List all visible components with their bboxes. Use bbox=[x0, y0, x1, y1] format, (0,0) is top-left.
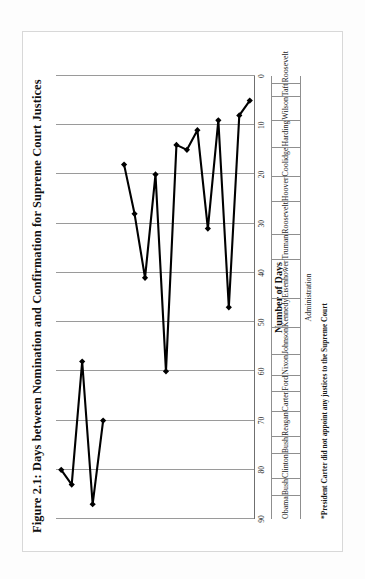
series-line bbox=[124, 101, 250, 372]
category-table-bottom-border bbox=[300, 76, 301, 519]
data-point-marker bbox=[79, 358, 85, 364]
plot-area bbox=[56, 76, 255, 519]
value-tick-10: 10 bbox=[257, 121, 266, 129]
category-cell: Carter bbox=[271, 392, 300, 413]
data-point-marker bbox=[90, 501, 96, 507]
category-cell: Kennedy bbox=[271, 299, 300, 328]
data-point-marker bbox=[131, 211, 137, 217]
category-label: Taft bbox=[281, 84, 290, 97]
value-tick-80: 80 bbox=[257, 466, 266, 474]
scanned-page: Figure 2.1: Days between Nomination and … bbox=[0, 0, 365, 579]
data-point-marker bbox=[121, 162, 127, 168]
category-label: Johnson bbox=[281, 328, 290, 354]
category-cell: Taft bbox=[271, 84, 300, 98]
category-label: Carter bbox=[281, 392, 290, 412]
data-series bbox=[56, 76, 255, 519]
figure-frame: Figure 2.1: Days between Nomination and … bbox=[22, 31, 343, 552]
category-label: Obama bbox=[281, 496, 290, 519]
category-cell: Johnson bbox=[271, 328, 300, 355]
category-label: Harding bbox=[281, 121, 290, 147]
category-cell: Roosevelt bbox=[271, 51, 300, 84]
category-cell: Nixon bbox=[271, 355, 300, 376]
category-label: Nixon bbox=[281, 355, 290, 375]
category-cell: Obama bbox=[271, 496, 300, 519]
category-axis-label: Administration bbox=[304, 76, 313, 519]
category-cell: Eisenhower bbox=[271, 260, 300, 298]
category-label: Reagan bbox=[281, 412, 290, 436]
value-tick-30: 30 bbox=[257, 220, 266, 228]
category-label: Hoover bbox=[281, 177, 290, 201]
value-tick-0: 0 bbox=[257, 74, 266, 78]
data-point-marker bbox=[215, 117, 221, 123]
category-label: Kennedy bbox=[281, 299, 290, 327]
value-tick-90: 90 bbox=[257, 515, 266, 523]
value-axis-line bbox=[254, 76, 255, 519]
category-label: Bush bbox=[281, 479, 290, 495]
category-label: Coolidge bbox=[281, 148, 290, 177]
figure: Figure 2.1: Days between Nomination and … bbox=[24, 32, 343, 541]
category-label: Truman bbox=[281, 235, 290, 260]
category-label: Bush bbox=[281, 437, 290, 453]
category-cell: Hoover bbox=[271, 177, 300, 202]
value-tick-40: 40 bbox=[257, 269, 266, 277]
category-label: Ford bbox=[281, 376, 290, 391]
data-point-marker bbox=[152, 171, 158, 177]
value-tick-70: 70 bbox=[257, 417, 266, 425]
category-table: ObamaBushClintonBushReaganCarterFordNixo… bbox=[271, 76, 301, 519]
category-cell: Truman bbox=[271, 235, 300, 261]
category-label: Clinton bbox=[281, 454, 290, 478]
category-label: Roosevelt bbox=[281, 202, 290, 234]
value-axis-ticks: 9080706050403020100 bbox=[257, 76, 271, 519]
data-point-marker bbox=[205, 225, 211, 231]
figure-footnote: *President Carter did not appoint any ju… bbox=[320, 59, 329, 519]
category-label: Roosevelt bbox=[281, 51, 290, 83]
data-point-marker bbox=[100, 417, 106, 423]
category-label: Eisenhower bbox=[281, 260, 290, 297]
data-point-marker bbox=[142, 275, 148, 281]
category-cell: Wilson bbox=[271, 97, 300, 120]
data-point-marker bbox=[163, 368, 169, 374]
data-point-marker bbox=[226, 304, 232, 310]
value-tick-60: 60 bbox=[257, 368, 266, 376]
category-cell: Bush bbox=[271, 437, 300, 454]
category-cell: Reagan bbox=[271, 412, 300, 437]
category-cells: ObamaBushClintonBushReaganCarterFordNixo… bbox=[271, 76, 300, 519]
category-label: Wilson bbox=[281, 97, 290, 119]
rotated-figure-container: Figure 2.1: Days between Nomination and … bbox=[24, 32, 343, 541]
category-cell: Roosevelt bbox=[271, 202, 300, 235]
figure-title: Figure 2.1: Days between Nomination and … bbox=[30, 73, 48, 533]
category-cell: Ford bbox=[271, 376, 300, 392]
category-cell: Bush bbox=[271, 479, 300, 496]
category-cell: Clinton bbox=[271, 454, 300, 479]
category-cell: Harding bbox=[271, 121, 300, 148]
value-tick-50: 50 bbox=[257, 318, 266, 326]
value-tick-20: 20 bbox=[257, 171, 266, 179]
category-cell: Coolidge bbox=[271, 148, 300, 178]
series-line bbox=[61, 361, 103, 504]
